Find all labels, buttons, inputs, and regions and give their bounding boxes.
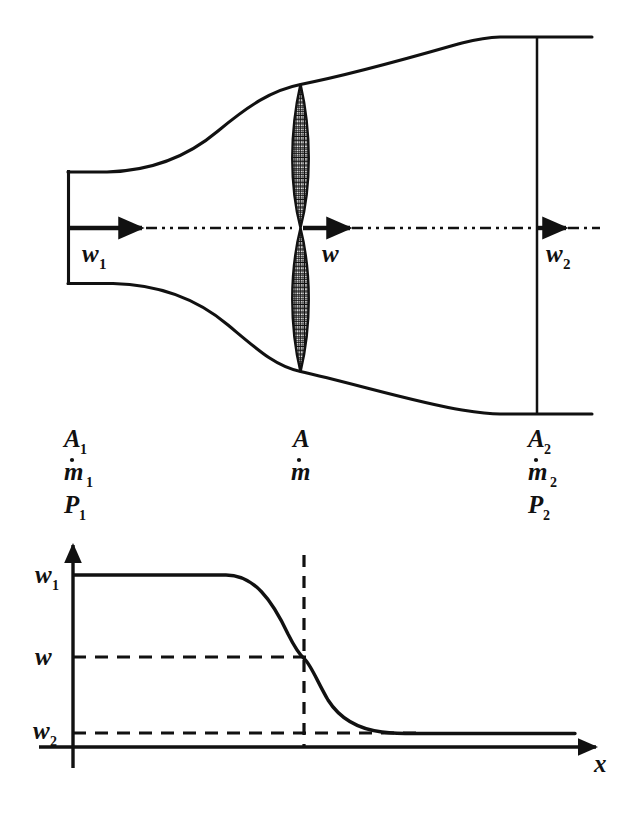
chart-velocity-curve: [74, 575, 575, 734]
station-throat-row-1: m: [291, 458, 310, 485]
chart-ytick-w2: w 2: [33, 717, 57, 749]
station-1-area-symbol: A: [62, 425, 81, 452]
station-1-massflow-dot: [70, 458, 74, 462]
chart-ytick-w: w: [35, 643, 52, 670]
station-1-row-2: P 1: [63, 491, 86, 523]
station-1-pressure-subscript: 1: [79, 508, 86, 523]
station-2-row-0: A 2: [526, 425, 551, 457]
orifice-lower-lens: [292, 228, 309, 372]
duct-velocity-label-outlet-sub: 2: [563, 256, 571, 272]
station-throat-area-symbol: A: [291, 425, 310, 452]
station-label-column-throat: A m: [291, 425, 310, 485]
station-1-row-0: A 1: [62, 425, 87, 457]
station-2-massflow-dot: [534, 458, 538, 462]
station-2-massflow-symbol: m: [528, 458, 547, 485]
station-1-pressure-symbol: P: [63, 491, 80, 518]
duct-velocity-label-outlet: w 2: [546, 240, 571, 272]
station-1-massflow-subscript: 1: [86, 475, 93, 490]
duct-velocity-label-throat: w: [322, 240, 339, 267]
station-2-row-1: m 2: [528, 458, 557, 490]
velocity-profile-chart: w 1 w w 2 x: [33, 545, 607, 777]
station-2-massflow-subscript: 2: [550, 475, 557, 490]
figure-svg: w 1 w w 2 A 1 m 1: [0, 0, 632, 814]
station-2-area-symbol: A: [526, 425, 545, 452]
station-2-pressure-symbol: P: [527, 491, 544, 518]
duct-bottom-wall: [68, 284, 592, 415]
station-1-row-1: m 1: [64, 458, 93, 490]
duct-top-wall: [68, 37, 592, 172]
chart-ytick-w1-sub: 1: [52, 578, 59, 593]
station-throat-massflow-symbol: m: [291, 458, 310, 485]
station-label-column-2: A 2 m 2 P 2: [526, 425, 557, 523]
duct-velocity-label-inlet: w 1: [82, 240, 107, 272]
duct-diagram-group: w 1 w w 2 A 1 m 1: [62, 37, 600, 523]
station-label-column-1: A 1 m 1 P 1: [62, 425, 93, 523]
station-throat-massflow-dot: [297, 458, 301, 462]
station-1-area-subscript: 1: [80, 442, 87, 457]
station-2-area-subscript: 2: [544, 442, 551, 457]
duct-velocity-label-inlet-base: w: [82, 240, 99, 267]
station-1-massflow-symbol: m: [64, 458, 83, 485]
chart-ytick-w2-sub: 2: [50, 734, 57, 749]
station-throat-row-0: A: [291, 425, 310, 452]
station-2-row-2: P 2: [527, 491, 550, 523]
chart-ytick-w1: w 1: [35, 561, 59, 593]
station-2-pressure-subscript: 2: [543, 508, 550, 523]
chart-ytick-w1-base: w: [35, 561, 52, 588]
chart-ytick-w-base: w: [35, 643, 52, 670]
duct-velocity-label-inlet-sub: 1: [99, 256, 107, 272]
figure-root: w 1 w w 2 A 1 m 1: [0, 0, 632, 814]
duct-velocity-label-outlet-base: w: [546, 240, 563, 267]
duct-velocity-label-throat-base: w: [322, 240, 339, 267]
orifice-upper-lens: [292, 84, 309, 228]
chart-x-axis-label: x: [593, 750, 607, 777]
chart-ytick-w2-base: w: [33, 717, 50, 744]
